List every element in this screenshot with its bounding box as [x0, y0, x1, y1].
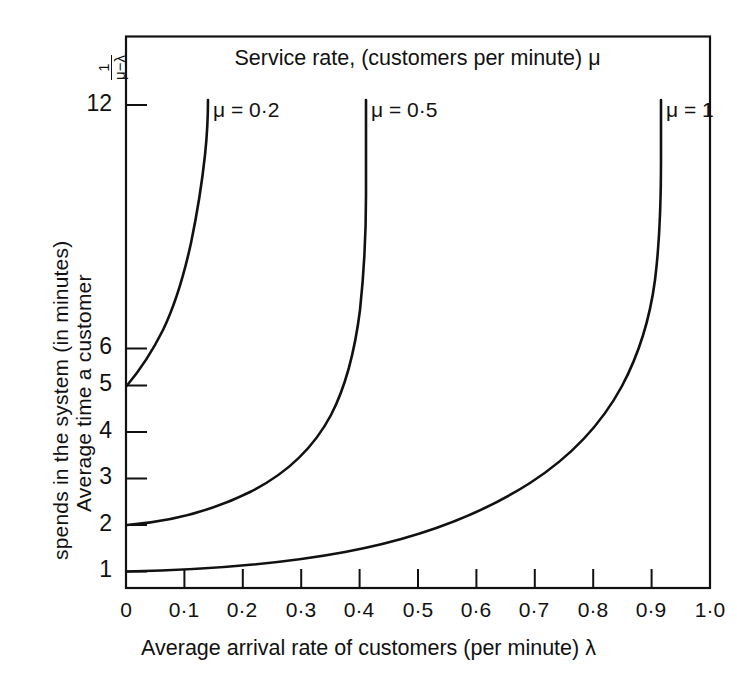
x-tick-label-0-1: 0·1 [159, 598, 209, 622]
y-tick-label-6: 6 [70, 333, 112, 360]
x-tick-label-0-6: 0·6 [451, 598, 501, 622]
x-tick-label-0: 0 [101, 598, 151, 622]
y-tick-label-4: 4 [70, 417, 112, 444]
curve-label-mu-0-5: μ = 0·5 [371, 98, 437, 122]
x-tick-label-0-5: 0·5 [393, 598, 443, 622]
x-tick-label-0-4: 0·4 [334, 598, 384, 622]
x-tick-label-0-8: 0·8 [568, 598, 618, 622]
chart-title: Service rate, (customers per minute) μ [125, 46, 710, 71]
x-tick-label-0-9: 0·9 [626, 598, 676, 622]
curve-label-mu-1: μ = 1 [666, 98, 714, 122]
y-tick-marks [126, 105, 147, 572]
x-tick-label-0-7: 0·7 [509, 598, 559, 622]
chart-figure: 12 6 5 4 3 2 1 0 0·1 0·2 0·3 0·4 0·5 0·6… [0, 0, 737, 687]
y-tick-label-3: 3 [70, 463, 112, 490]
x-tick-label-0-3: 0·3 [276, 598, 326, 622]
x-tick-marks [184, 569, 710, 588]
y-tick-label-2: 2 [70, 510, 112, 537]
curve-label-mu-0-2: μ = 0·2 [213, 98, 279, 122]
x-tick-label-0-2: 0·2 [217, 598, 267, 622]
curve-mu-0-2 [127, 100, 208, 386]
x-axis-title: Average arrival rate of customers (per m… [0, 636, 737, 661]
y-tick-label-12: 12 [70, 90, 112, 117]
y-tick-label-1: 1 [70, 556, 112, 583]
x-tick-label-1-0: 1·0 [685, 598, 735, 622]
y-tick-label-5: 5 [70, 370, 112, 397]
curve-mu-0-5 [127, 100, 366, 525]
curve-mu-1 [127, 100, 661, 572]
